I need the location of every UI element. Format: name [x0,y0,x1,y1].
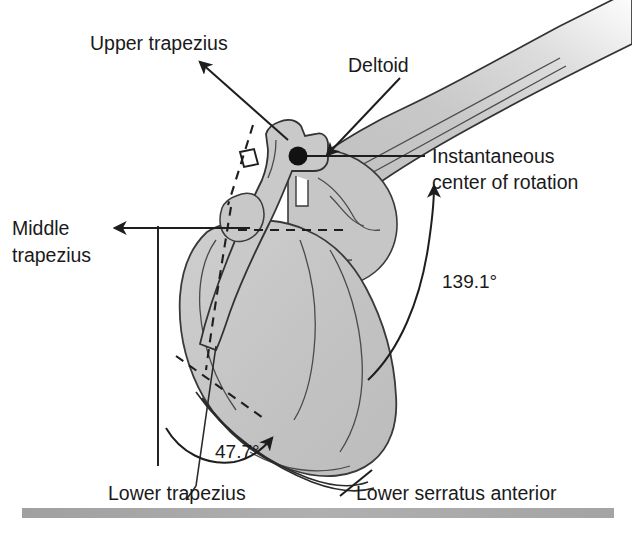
upper-trapezius-arrow [200,62,288,140]
diagram-canvas: Upper trapezius Deltoid Instantaneous ce… [0,0,632,536]
label-lower-serratus-anterior: Lower serratus anterior [356,482,557,504]
label-upper-trapezius: Upper trapezius [90,32,228,54]
label-icr-line1: Instantaneous [432,145,555,167]
label-lower-angle: 47.7° [215,441,260,462]
anatomy-figure: Upper trapezius Deltoid Instantaneous ce… [0,0,632,536]
label-icr-line2: center of rotation [432,171,578,193]
center-of-rotation-dot-icon [289,147,308,166]
label-middle-trapezius-line2: trapezius [12,244,91,266]
label-deltoid: Deltoid [348,54,409,76]
coracoid-notch-shape [296,176,308,206]
label-lower-trapezius: Lower trapezius [108,482,246,504]
baseline-bar [22,508,614,518]
label-middle-trapezius-line1: Middle [12,217,69,239]
label-upper-angle: 139.1° [442,271,497,292]
